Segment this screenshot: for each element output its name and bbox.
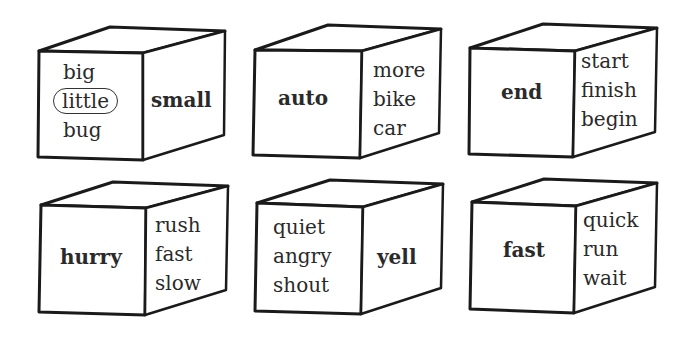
choice-list: quick run wait bbox=[583, 206, 638, 293]
key-word: fast bbox=[503, 236, 545, 265]
choice-word[interactable]: run bbox=[583, 235, 638, 264]
choice-word[interactable]: quick bbox=[583, 206, 638, 235]
choice-word[interactable]: wait bbox=[583, 264, 638, 293]
